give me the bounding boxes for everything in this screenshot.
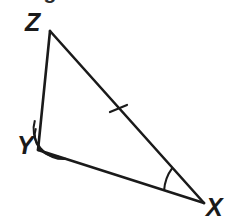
vertex-label-X: X (206, 195, 223, 220)
vertex-label-Y: Y (17, 133, 34, 158)
geometry-figure-triangle-xyz: n figure XYZ below Z Y X (0, 0, 230, 224)
angle-mark-X-arc (164, 168, 172, 191)
side-ZY (38, 31, 50, 150)
vertex-label-Z: Z (25, 10, 40, 35)
